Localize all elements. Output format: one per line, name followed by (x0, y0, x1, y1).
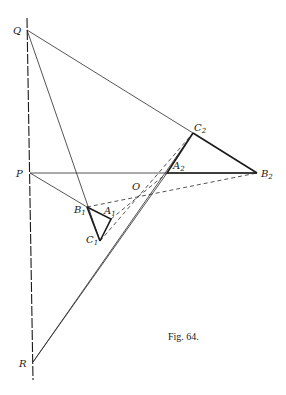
axis-line-qpr (27, 18, 33, 380)
projective-diagram: Q P R O B1 A1 C1 A2 B2 C2 Fig. 64. (0, 0, 286, 395)
dashed-line-b1-b2 (87, 173, 257, 207)
label-p: P (15, 168, 23, 179)
line-r-a2 (33, 173, 167, 362)
label-a2: A2 (172, 160, 185, 173)
label-o: O (132, 181, 140, 192)
label-c2: C2 (194, 122, 207, 135)
label-q: Q (13, 25, 21, 36)
label-c1: C1 (86, 234, 98, 247)
label-b2: B2 (260, 168, 273, 181)
line-q-c1 (27, 30, 100, 241)
label-b1: B1 (73, 204, 86, 217)
figure-caption: Fig. 64. (168, 331, 199, 342)
side-c2b2 (193, 133, 257, 173)
dashed-line-c1-c2 (100, 133, 193, 241)
line-q-c2 (27, 30, 193, 133)
label-r: R (18, 358, 27, 369)
